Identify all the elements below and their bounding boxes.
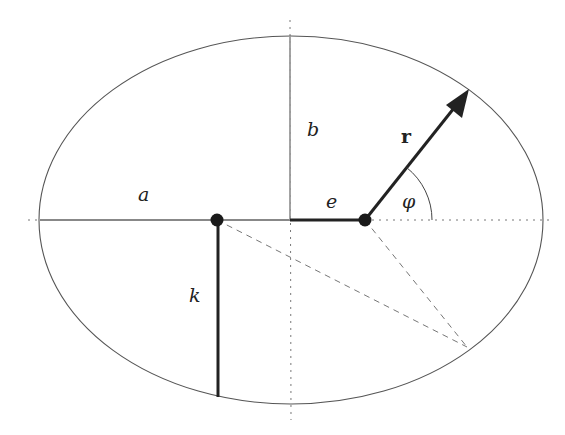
right-focus-point	[359, 214, 372, 227]
label-b: b	[307, 118, 319, 140]
label-e: e	[326, 190, 337, 212]
label-r: r	[401, 125, 412, 147]
label-phi: φ	[402, 190, 416, 212]
left-focus-point	[211, 214, 224, 227]
background	[0, 0, 565, 435]
label-a: a	[138, 183, 149, 205]
label-k: k	[189, 284, 201, 306]
ellipse-diagram: a b e r φ k	[0, 0, 565, 435]
